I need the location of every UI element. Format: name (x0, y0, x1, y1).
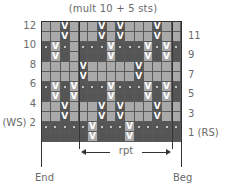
end-line (41, 21, 42, 167)
slip-stitch-cell: V (51, 52, 60, 62)
purl-dot-icon (156, 46, 158, 48)
stitch-cell (98, 82, 107, 92)
stitch-cell (98, 62, 107, 72)
stitch-cell (42, 82, 51, 92)
stitch-cell (61, 132, 70, 142)
stitch-cell (61, 82, 70, 92)
purl-dot-icon (101, 86, 103, 88)
slip-stitch-cell: V (51, 92, 60, 102)
purl-dot-icon (64, 46, 66, 48)
stitch-cell (98, 52, 107, 62)
purl-dot-icon (119, 126, 121, 128)
slip-stitch-cell: V (116, 112, 125, 122)
stitch-cell (70, 62, 79, 72)
purl-dot-icon (129, 86, 131, 88)
stitch-cell (144, 132, 153, 142)
stitch-cell (107, 102, 116, 112)
stitch-cell (88, 102, 97, 112)
stitch-cell (144, 112, 153, 122)
purl-dot-icon (45, 126, 47, 128)
stitch-cell (116, 52, 125, 62)
stitch-cell (51, 62, 60, 72)
stitch-cell (162, 122, 171, 132)
beg-line (181, 21, 182, 167)
stitch-cell (135, 42, 144, 52)
stitch-cell (42, 52, 51, 62)
stitch-cell (88, 42, 97, 52)
purl-dot-icon (166, 126, 168, 128)
stitch-cell (162, 132, 171, 142)
purl-dot-icon (175, 46, 177, 48)
stitch-cell (135, 32, 144, 42)
stitch-cell (42, 122, 51, 132)
stitch-cell (125, 82, 134, 92)
stitch-cell (172, 32, 181, 42)
purl-dot-icon (119, 46, 121, 48)
row-label-6: 6 (30, 78, 36, 89)
stitch-cell (116, 62, 125, 72)
stitch-cell (98, 122, 107, 132)
stitch-cell (42, 62, 51, 72)
purl-dot-icon (73, 126, 75, 128)
end-label: End (35, 172, 54, 183)
stitch-cell (172, 132, 181, 142)
stitch-cell (61, 52, 70, 62)
stitch-cell (88, 92, 97, 102)
stitch-cell (116, 82, 125, 92)
purl-dot-icon (138, 46, 140, 48)
stitch-cell (172, 92, 181, 102)
row-label-11: 11 (188, 30, 201, 41)
stitch-cell (162, 62, 171, 72)
stitch-cell (125, 62, 134, 72)
stitch-cell (153, 132, 162, 142)
stitch-chart-grid: VVVVVVVVVVVVVVVVVVVVVVVVVVVVVVVVVVVVVVVV… (41, 21, 182, 138)
row-label-12: 12 (23, 20, 36, 31)
slip-stitch-cell: V (107, 92, 116, 102)
purl-dot-icon (175, 86, 177, 88)
stitch-cell (98, 72, 107, 82)
purl-dot-icon (101, 46, 103, 48)
purl-dot-icon (129, 46, 131, 48)
stitch-cell (144, 22, 153, 32)
stitch-cell (172, 52, 181, 62)
stitch-cell (125, 52, 134, 62)
stitch-cell (98, 42, 107, 52)
slip-stitch-cell: V (135, 72, 144, 82)
stitch-cell (172, 22, 181, 32)
stitch-cell (70, 122, 79, 132)
stitch-cell (125, 72, 134, 82)
stitch-cell (172, 42, 181, 52)
purl-dot-icon (54, 126, 56, 128)
purl-dot-icon (91, 46, 93, 48)
stitch-cell (61, 72, 70, 82)
stitch-cell (125, 92, 134, 102)
stitch-cell (153, 62, 162, 72)
purl-dot-icon (147, 126, 149, 128)
beg-label: Beg (173, 172, 192, 183)
repeat-end-line (172, 21, 173, 149)
slip-stitch-cell: V (162, 52, 171, 62)
stitch-cell (172, 72, 181, 82)
stitch-cell (51, 102, 60, 112)
row-label-9: 9 (188, 49, 194, 60)
repeat-label: rpt (80, 145, 172, 156)
stitch-cell (42, 92, 51, 102)
stitch-cell (162, 112, 171, 122)
slip-stitch-cell: V (98, 32, 107, 42)
stitch-cell (79, 122, 88, 132)
stitch-cell (42, 22, 51, 32)
stitch-cell (51, 132, 60, 142)
stitch-cell (135, 132, 144, 142)
stitch-cell (107, 62, 116, 72)
stitch-cell (107, 22, 116, 32)
slip-stitch-cell: V (116, 32, 125, 42)
row-label-3: 3 (188, 108, 194, 119)
stitch-cell (42, 112, 51, 122)
purl-dot-icon (138, 86, 140, 88)
row-label-7: 7 (188, 69, 194, 80)
stitch-cell (153, 122, 162, 132)
stitch-cell (42, 32, 51, 42)
purl-dot-icon (175, 126, 177, 128)
stitch-cell (51, 122, 60, 132)
stitch-cell (79, 132, 88, 142)
